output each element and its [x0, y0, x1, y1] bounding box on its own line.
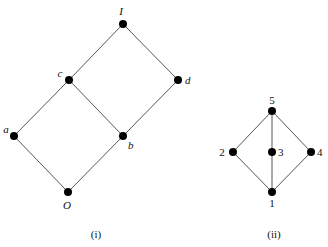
node-b — [119, 132, 127, 140]
node-4 — [307, 148, 315, 156]
node-3 — [268, 148, 276, 156]
node-label-a: a — [3, 123, 9, 135]
edge-c-a — [14, 80, 69, 136]
edge-d-b — [123, 80, 178, 136]
node-label-5: 5 — [269, 94, 275, 106]
edge-5-2 — [233, 111, 272, 152]
node-label-b: b — [128, 139, 134, 151]
hasse-diagrams-figure: IcdabO(i)52341(ii) — [0, 0, 328, 247]
edge-I-d — [123, 24, 178, 80]
node-1 — [268, 188, 276, 196]
diagram-canvas: IcdabO(i)52341(ii) — [0, 0, 328, 247]
node-label-4: 4 — [317, 146, 323, 158]
node-5 — [268, 107, 276, 115]
node-d — [174, 76, 182, 84]
node-label-3: 3 — [278, 146, 284, 158]
node-label-d: d — [185, 74, 191, 86]
node-label-O: O — [63, 199, 71, 211]
caption-i: (i) — [91, 228, 102, 241]
node-label-I: I — [118, 5, 124, 17]
node-I — [119, 20, 127, 28]
diagram-i: IcdabO(i) — [3, 5, 191, 241]
edge-c-b — [69, 80, 123, 136]
edge-4-1 — [272, 152, 311, 192]
node-label-2: 2 — [219, 146, 225, 158]
edge-a-O — [14, 136, 68, 192]
diagram-ii: 52341(ii) — [219, 94, 323, 241]
node-c — [65, 76, 73, 84]
node-O — [64, 188, 72, 196]
edge-I-c — [69, 24, 123, 80]
node-label-c: c — [58, 67, 63, 79]
edge-b-O — [68, 136, 123, 192]
edge-2-1 — [233, 152, 272, 192]
node-label-1: 1 — [269, 197, 275, 209]
caption-ii: (ii) — [267, 228, 281, 241]
node-2 — [229, 148, 237, 156]
node-a — [10, 132, 18, 140]
